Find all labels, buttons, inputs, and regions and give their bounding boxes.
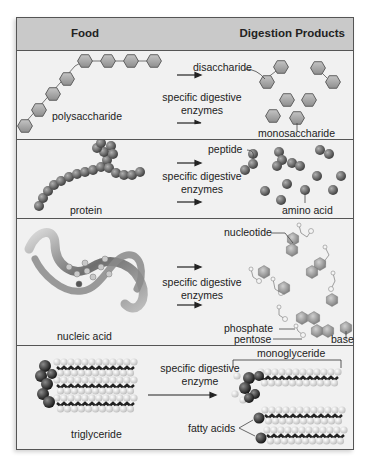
header-digestion-products: Digestion Products bbox=[240, 27, 345, 39]
enzyme-line-2: enzyme bbox=[145, 375, 255, 388]
enzyme-label: specific digestive enzymes bbox=[157, 91, 247, 117]
enzyme-line-1: specific digestive bbox=[157, 91, 247, 104]
enzyme-label: specific digestive enzymes bbox=[149, 170, 255, 196]
enzyme-line-1: specific digestive bbox=[149, 170, 255, 183]
label-nucleic-acid: nucleic acid bbox=[57, 330, 112, 342]
row-polysaccharide: polysaccharide specific digestive enzyme… bbox=[17, 51, 353, 140]
digestion-table: Food Digestion Products bbox=[16, 17, 354, 450]
label-fatty-acids: fatty acids bbox=[188, 422, 235, 434]
row-triglyceride: triglyceride specific digestive enzyme m… bbox=[17, 346, 353, 450]
enzyme-line-2: enzymes bbox=[149, 289, 255, 302]
enzyme-line-1: specific digestive bbox=[149, 276, 255, 289]
label-peptide: peptide bbox=[208, 143, 242, 155]
row-nucleic-acid: nucleic acid specific digestive enzymes … bbox=[17, 219, 353, 346]
enzyme-line-2: enzymes bbox=[157, 104, 247, 117]
label-protein: protein bbox=[70, 204, 102, 216]
label-pentose: pentose bbox=[234, 333, 271, 345]
label-triglyceride: triglyceride bbox=[71, 428, 122, 440]
enzyme-label: specific digestive enzyme bbox=[145, 362, 255, 388]
enzyme-label: specific digestive enzymes bbox=[149, 276, 255, 302]
label-amino-acid: amino acid bbox=[282, 204, 333, 216]
header-food: Food bbox=[71, 27, 99, 39]
enzyme-line-1: specific digestive bbox=[145, 362, 255, 375]
label-monoglyceride: monoglyceride bbox=[257, 347, 325, 359]
label-nucleotide: nucleotide bbox=[224, 226, 272, 238]
table-header: Food Digestion Products bbox=[17, 18, 353, 51]
label-disaccharide: disaccharide bbox=[193, 61, 252, 73]
label-polysaccharide: polysaccharide bbox=[52, 110, 122, 122]
label-base: base bbox=[331, 333, 354, 345]
enzyme-line-2: enzymes bbox=[149, 183, 255, 196]
row-protein: protein specific digestive enzymes pepti… bbox=[17, 140, 353, 219]
label-monosaccharide: monosaccharide bbox=[258, 127, 335, 139]
